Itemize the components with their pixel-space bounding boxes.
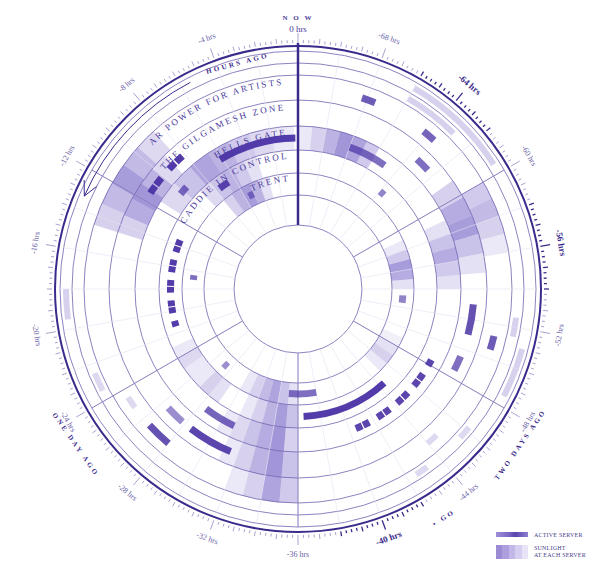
axis-tick xyxy=(533,214,536,215)
axis-tick xyxy=(443,88,445,90)
active-mark xyxy=(399,295,407,303)
axis-tick xyxy=(529,203,534,205)
active-mark xyxy=(303,380,386,419)
axis-tick xyxy=(106,447,110,450)
axis-tick xyxy=(421,502,424,506)
axis-tick xyxy=(527,199,530,200)
axis-tick xyxy=(496,142,498,144)
axis-tick xyxy=(464,105,466,107)
axis-tick xyxy=(435,494,437,496)
axis-tick xyxy=(91,151,93,153)
axis-tick xyxy=(118,117,120,119)
tick-label: -52 hrs xyxy=(553,323,566,347)
axis-tick xyxy=(169,76,171,79)
axis-tick xyxy=(508,417,511,419)
axis-tick xyxy=(476,459,478,461)
tick-label: -12 hrs xyxy=(58,144,77,168)
axis-tick xyxy=(456,477,462,485)
axis-tick xyxy=(160,494,162,496)
faint-mark xyxy=(126,396,138,410)
axis-tick xyxy=(346,45,347,48)
axis-tick xyxy=(421,72,424,76)
axis-tick xyxy=(472,463,476,467)
axis-tick xyxy=(151,88,153,90)
axis-tick xyxy=(192,62,194,67)
axis-tick xyxy=(239,47,240,50)
axis-tick xyxy=(523,388,526,389)
active-mark xyxy=(415,157,431,173)
axis-tick xyxy=(76,161,85,166)
axis-tick xyxy=(92,145,96,148)
axis-tick xyxy=(244,46,245,49)
tick-label: -28 hrs xyxy=(116,482,139,503)
axis-tick xyxy=(146,484,148,486)
axis-tick xyxy=(75,179,78,180)
axis-tick xyxy=(97,142,99,144)
active-mark xyxy=(354,423,363,432)
now-label: N O W xyxy=(283,14,314,22)
axis-tick xyxy=(516,174,519,175)
ring-grid xyxy=(60,43,536,527)
axis-tick xyxy=(382,48,385,57)
axis-tick xyxy=(198,514,199,517)
tick-label: -56 hrs xyxy=(554,229,569,258)
axis-tick xyxy=(68,383,71,384)
axis-tick xyxy=(500,145,504,148)
active-server-swatch xyxy=(496,532,528,537)
axis-tick xyxy=(75,398,78,399)
axis-tick xyxy=(54,240,57,241)
axis-tick xyxy=(539,337,542,338)
axis-tick xyxy=(100,439,102,441)
axis-tick xyxy=(111,125,113,127)
axis-tick xyxy=(416,505,417,508)
axis-tick xyxy=(490,133,492,135)
hour-spoke xyxy=(64,248,235,278)
axis-tick xyxy=(416,71,417,74)
axis-tick xyxy=(173,72,176,76)
axis-tick xyxy=(46,332,56,334)
axis-tick xyxy=(130,105,132,107)
active-mark xyxy=(190,275,197,280)
axis-tick xyxy=(521,393,526,395)
axis-tick xyxy=(104,443,106,445)
hour-spoke xyxy=(309,352,339,523)
active-mark xyxy=(378,189,387,198)
axis-tick xyxy=(505,421,508,423)
axis-tick xyxy=(426,76,428,79)
axis-tick xyxy=(525,194,528,195)
axis-tick xyxy=(88,155,91,157)
axis-tick xyxy=(448,484,450,486)
axis-tick xyxy=(468,109,470,111)
axis-tick xyxy=(531,368,534,369)
axis-tick xyxy=(70,189,73,190)
axis-tick xyxy=(341,531,342,536)
active-mark xyxy=(166,406,185,425)
axis-tick xyxy=(76,412,85,417)
axis-tick xyxy=(476,117,478,119)
active-mark xyxy=(361,95,377,106)
arc-annotation: • GO xyxy=(431,508,456,528)
axis-tick xyxy=(533,363,536,364)
legend: ACTIVE SERVER SUNLIGHT AT EACH SERVER xyxy=(496,532,598,565)
axis-tick xyxy=(154,83,157,87)
axis-tick xyxy=(402,512,404,517)
axis-tick xyxy=(452,481,454,483)
hour-spoke xyxy=(74,208,238,268)
axis-tick xyxy=(68,194,71,195)
axis-tick xyxy=(514,169,517,170)
active-mark xyxy=(169,259,177,266)
axis-tick xyxy=(173,502,176,506)
axis-tick xyxy=(228,50,229,53)
active-mark xyxy=(173,245,181,253)
active-mark xyxy=(421,129,436,143)
legend-label-sunlight-line2: AT EACH SERVER xyxy=(534,552,586,559)
tick-label: -64 hrs xyxy=(456,72,483,97)
axis-tick xyxy=(514,407,517,408)
sunlight-segment xyxy=(284,427,298,452)
axis-tick xyxy=(164,79,166,82)
axis-tick xyxy=(464,470,466,472)
axis-tick xyxy=(351,529,352,532)
axis-tick xyxy=(392,59,393,62)
axis-tick xyxy=(387,518,388,521)
axis-tick xyxy=(188,510,189,513)
